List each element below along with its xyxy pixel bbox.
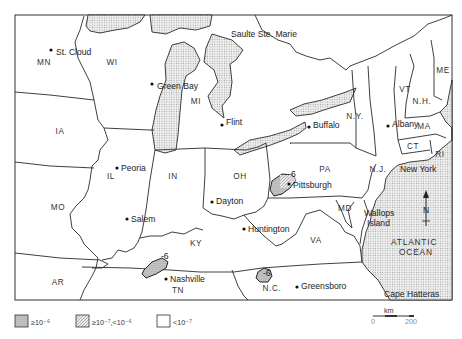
state-label: ME bbox=[436, 66, 449, 75]
state-label: IA bbox=[56, 127, 65, 136]
map-label-ocean1: ATLANTIC bbox=[391, 237, 437, 247]
legend-swatch-low bbox=[157, 315, 170, 327]
legend: ≥10⁻⁶ ≥10⁻⁷,<10⁻⁶ <10⁻⁷ bbox=[15, 315, 192, 327]
state-label: MI bbox=[191, 97, 201, 106]
scale-max: 200 bbox=[405, 317, 417, 326]
city-label: Greensboro bbox=[301, 281, 347, 291]
map-figure: N MNWIMIIAILINOHPAN.Y.VTN.H.MEMACTRIN.J.… bbox=[0, 0, 462, 339]
city-label: Dayton bbox=[216, 196, 243, 206]
legend-swatch-high bbox=[15, 315, 28, 327]
legend-swatch-mid bbox=[76, 315, 89, 327]
map-label-ocean2: OCEAN bbox=[399, 247, 433, 257]
city-dot-icon bbox=[287, 182, 290, 185]
map-label-wallops1: Wallops bbox=[364, 208, 394, 218]
state-label: VA bbox=[310, 236, 322, 245]
city-label: Buffalo bbox=[313, 120, 340, 130]
city-dot-icon bbox=[220, 123, 223, 126]
scale-min: 0 bbox=[371, 317, 375, 326]
state-label: CT bbox=[407, 142, 419, 151]
contour-label: -6 bbox=[161, 251, 169, 261]
state-label: WI bbox=[106, 58, 117, 67]
state-label: N.C. bbox=[263, 284, 282, 293]
city-dot-icon bbox=[242, 227, 245, 230]
map-label-cape: Cape Hatteras bbox=[384, 289, 439, 299]
state-label: VT bbox=[399, 85, 411, 94]
state-label: IL bbox=[107, 172, 115, 181]
state-label: N.H. bbox=[413, 97, 432, 106]
state-label: N.J. bbox=[370, 165, 387, 174]
city-dot-icon bbox=[150, 82, 153, 85]
city-label: St. Cloud bbox=[56, 47, 92, 57]
city-dot-icon bbox=[295, 285, 298, 288]
map-label-newyork: New York bbox=[400, 164, 437, 174]
city-dot-icon bbox=[210, 200, 213, 203]
state-label: RI bbox=[435, 150, 444, 159]
legend-label-low: <10⁻⁷ bbox=[173, 318, 192, 327]
map-label-sault: Saulte Ste. Marie bbox=[231, 29, 297, 39]
city-dot-icon bbox=[115, 166, 118, 169]
state-label: OH bbox=[233, 172, 246, 181]
state-label: AR bbox=[52, 278, 65, 287]
city-label: Huntington bbox=[248, 224, 290, 234]
north-arrow-label: N bbox=[423, 205, 429, 215]
city-dot-icon bbox=[164, 277, 167, 280]
state-label: KY bbox=[190, 239, 202, 248]
contour-label: -6 bbox=[263, 268, 271, 278]
legend-label-mid: ≥10⁻⁷,<10⁻⁶ bbox=[92, 318, 132, 327]
city-label: Flint bbox=[226, 117, 243, 127]
city-dot-icon bbox=[307, 125, 310, 128]
city-label: Peoria bbox=[121, 163, 146, 173]
city-label: Albany bbox=[392, 119, 419, 129]
state-label: N.Y. bbox=[346, 112, 363, 121]
scale-unit: km bbox=[384, 306, 394, 315]
city-dot-icon bbox=[49, 48, 52, 51]
scale-bar: km 0 200 bbox=[371, 306, 417, 326]
city-label: Nashville bbox=[170, 274, 205, 284]
state-label: IN bbox=[168, 172, 177, 181]
map-label-wallops2: Island bbox=[367, 218, 390, 228]
state-label: TN bbox=[172, 286, 184, 295]
city-label: Salem bbox=[131, 214, 155, 224]
city-dot-icon bbox=[125, 217, 128, 220]
city-label: Green Bay bbox=[157, 81, 199, 91]
state-label: MA bbox=[417, 122, 430, 131]
legend-label-high: ≥10⁻⁶ bbox=[31, 318, 50, 327]
city-dot-icon bbox=[386, 124, 389, 127]
contour-label: 6 bbox=[291, 169, 296, 179]
state-label: MN bbox=[37, 58, 51, 67]
state-label: MO bbox=[51, 203, 65, 212]
state-label: MD bbox=[338, 204, 352, 213]
city-label: Pittsburgh bbox=[293, 180, 332, 190]
state-label: PA bbox=[319, 165, 331, 174]
